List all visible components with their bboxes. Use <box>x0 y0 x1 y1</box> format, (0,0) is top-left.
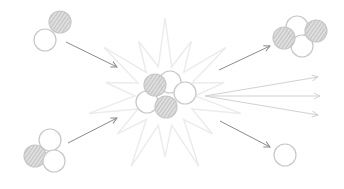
fusion-diagram: Deuterium and tritium nuclei fuse, produ… <box>0 0 344 189</box>
neutron-particle <box>43 150 65 172</box>
neutron-particle <box>274 144 296 166</box>
proton-particle <box>24 145 46 167</box>
tritium-in-arrow <box>68 118 117 143</box>
proton-particle <box>155 96 177 118</box>
proton-particle <box>49 11 71 33</box>
helium-nucleus <box>273 16 327 57</box>
neutron-particle <box>34 29 56 51</box>
deuterium-in-arrow <box>66 42 117 67</box>
compound-nucleus-nucleus <box>136 71 196 118</box>
helium-out-arrow <box>219 46 270 70</box>
deuterium-nucleus <box>34 11 71 51</box>
tritium-nucleus <box>24 129 65 172</box>
neutron-out-arrow <box>220 121 270 147</box>
nuclei <box>24 11 327 172</box>
proton-particle <box>305 20 327 42</box>
proton-particle <box>144 74 166 96</box>
energy-ray-1 <box>205 77 318 96</box>
neutron-particle <box>174 82 196 104</box>
diagram-canvas <box>0 0 344 189</box>
reaction-arrows <box>66 42 270 147</box>
proton-particle <box>273 27 295 49</box>
free-neutron-nucleus <box>274 144 296 166</box>
